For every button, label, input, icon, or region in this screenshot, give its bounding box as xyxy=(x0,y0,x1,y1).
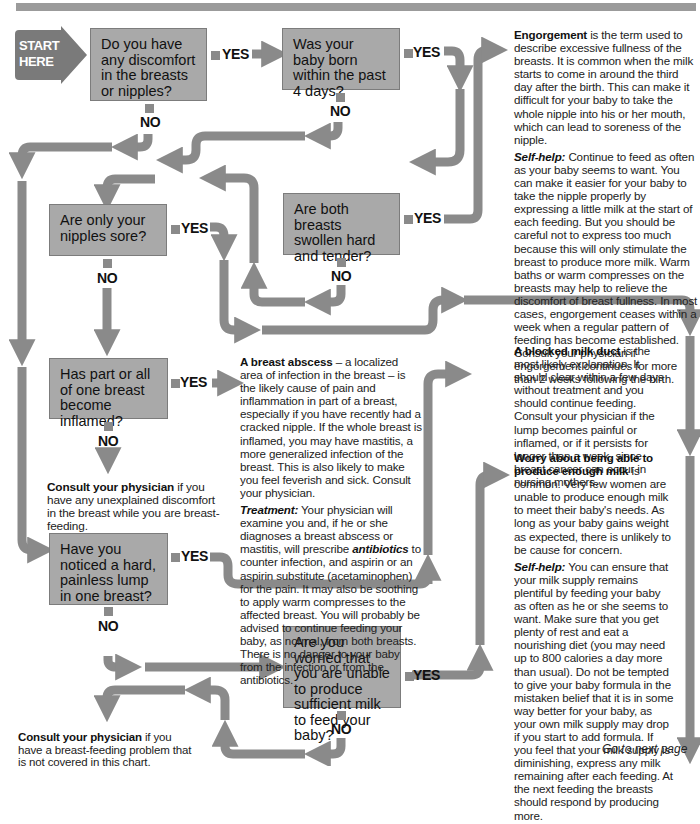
consult-physician-note-1: Consult your physician if you have any u… xyxy=(47,481,222,533)
yes-label: YES xyxy=(180,374,207,390)
no-label: NO xyxy=(98,433,118,449)
yes-marker xyxy=(171,225,180,234)
yes-marker xyxy=(211,51,220,60)
question-inflamed: Has part or all of one breast become inf… xyxy=(49,358,168,419)
no-label: NO xyxy=(331,268,351,284)
no-label: NO xyxy=(330,103,350,119)
yes-label: YES xyxy=(414,210,441,226)
yes-label: YES xyxy=(413,44,440,60)
answer-milk-supply: Worry about being able to produce enough… xyxy=(514,451,674,824)
no-label: NO xyxy=(331,721,351,737)
yes-label: YES xyxy=(181,548,208,564)
yes-marker xyxy=(171,379,180,388)
no-marker xyxy=(145,104,154,113)
no-marker xyxy=(337,258,346,267)
yes-marker xyxy=(171,553,180,562)
no-marker xyxy=(104,607,113,616)
no-marker xyxy=(104,422,113,431)
consult-physician-note-2: Consult your physician if you have a bre… xyxy=(18,731,198,769)
question-both-swollen: Are both breasts swollen hard and tender… xyxy=(283,193,400,255)
no-marker xyxy=(103,259,112,268)
start-label: START HERE xyxy=(19,38,59,70)
no-label: NO xyxy=(140,114,160,130)
answer-engorgement: Engorgement is the term used to describe… xyxy=(514,28,698,390)
no-label: NO xyxy=(98,618,118,634)
next-page-link[interactable]: Go to next page xyxy=(602,742,687,756)
question-baby-born: Was your baby born within the past 4 day… xyxy=(282,28,400,90)
answer-breast-abscess: A breast abscess – a localized area of i… xyxy=(240,355,422,690)
yes-label: YES xyxy=(181,220,208,236)
question-nipples-sore: Are only your nipples sore? xyxy=(49,204,167,256)
yes-marker xyxy=(404,49,413,58)
yes-label: YES xyxy=(222,46,249,62)
question-discomfort: Do you have any discomfort in the breast… xyxy=(90,28,207,101)
no-marker xyxy=(337,711,346,720)
no-marker xyxy=(336,93,345,102)
no-label: NO xyxy=(97,270,117,286)
yes-marker xyxy=(404,215,413,224)
question-lump: Have you noticed a hard, painless lump i… xyxy=(49,533,168,605)
